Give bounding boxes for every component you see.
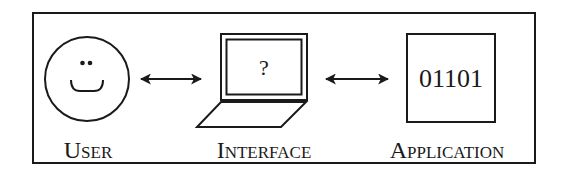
interface-screen-text: ? [259, 55, 269, 80]
interface-node: ? Interface [197, 34, 311, 163]
smiley-face-icon [45, 37, 129, 121]
user-node: User [45, 37, 129, 163]
user-label: User [64, 137, 113, 163]
application-label: Application [390, 137, 505, 163]
user-interface-application-diagram: User ? Interface 01101 Application [0, 0, 562, 173]
application-box-text: 01101 [419, 64, 483, 93]
interface-label: Interface [217, 137, 312, 163]
laptop-icon: ? [197, 34, 307, 127]
application-node: 01101 Application [390, 34, 505, 163]
binary-box-icon: 01101 [407, 34, 495, 122]
